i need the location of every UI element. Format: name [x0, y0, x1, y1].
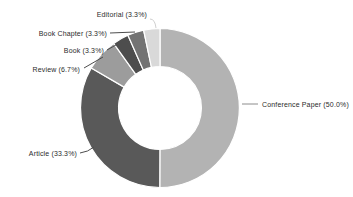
slice-label-review: Review (6.7%): [33, 66, 80, 74]
pie-slice-conference-paper: [160, 29, 240, 188]
leader-line-book-chapter: [110, 32, 135, 33]
leader-line-editorial: [150, 19, 156, 28]
donut-chart: Conference Paper (50.0%)Article (33.3%)R…: [0, 0, 353, 197]
slice-label-conference-paper: Conference Paper (50.0%): [262, 101, 349, 109]
slice-label-book-chapter: Book Chapter (3.3%): [39, 30, 107, 38]
pie-slice-article: [81, 68, 160, 187]
chart-container: Conference Paper (50.0%)Article (33.3%)R…: [0, 0, 353, 197]
slice-label-book: Book (3.3%): [64, 47, 104, 55]
slice-label-editorial: Editorial (3.3%): [97, 11, 147, 19]
slice-label-article: Article (33.3%): [29, 150, 77, 158]
